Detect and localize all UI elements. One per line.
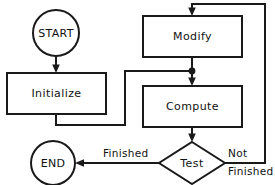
node-start[interactable]: START xyxy=(33,10,79,56)
test-label: Test xyxy=(179,157,204,170)
node-initialize[interactable]: Initialize xyxy=(7,73,106,114)
edge-label-not-finished: Finished xyxy=(228,165,273,177)
flowchart-diagram: START Initialize Modify Compute Test END xyxy=(0,0,275,185)
arrowhead-into-compute xyxy=(188,78,196,87)
edge-test-to-end xyxy=(75,159,159,167)
arrowhead-into-initialize xyxy=(52,65,60,74)
compute-label: Compute xyxy=(166,100,219,113)
arrowhead-into-test xyxy=(188,134,196,143)
initialize-label: Initialize xyxy=(31,87,81,100)
modify-label: Modify xyxy=(173,30,212,43)
end-label: END xyxy=(41,157,66,170)
node-modify[interactable]: Modify xyxy=(143,16,242,57)
junction-dot xyxy=(189,68,196,75)
arrowhead-into-end xyxy=(75,159,84,167)
start-label: START xyxy=(38,27,73,40)
edge-compute-to-test xyxy=(188,127,196,142)
node-test[interactable]: Test xyxy=(159,142,225,184)
arrowhead-into-modify xyxy=(188,8,196,17)
edge-label-finished: Finished xyxy=(103,147,148,159)
edge-start-to-initialize xyxy=(52,56,60,73)
node-compute[interactable]: Compute xyxy=(143,86,242,127)
node-end[interactable]: END xyxy=(31,141,75,185)
edge-label-not: Not xyxy=(228,147,247,159)
